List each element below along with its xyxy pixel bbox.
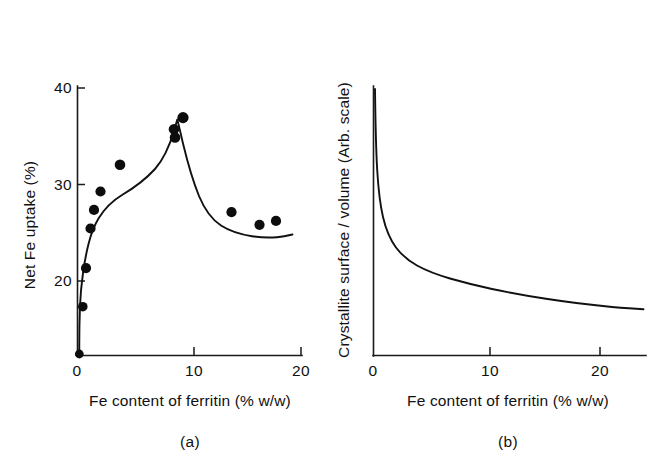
panel-a-plot-area: 40 30 20 0 10 20 Net Fe uptake (%) (0, 0, 340, 467)
panel-a-data-point (170, 132, 181, 143)
panel-a-data-point (254, 220, 264, 230)
panel-a-xtick-label-0: 0 (72, 362, 81, 379)
panel-a-xtick-label-10: 10 (185, 362, 203, 379)
panel-b-xtick-label-10: 10 (481, 362, 499, 379)
panel-a-data-point (177, 112, 188, 123)
panel-b-decay-curve (375, 89, 644, 309)
panel-b-xtick-label-20: 20 (591, 362, 609, 379)
panel-b-plot-area: 0 10 20 Crystallite surface / volume (Ar… (330, 0, 658, 467)
panel-a-data-point (81, 263, 91, 273)
panel-a-fitted-curve (79, 120, 292, 355)
panel-b-xtick-label-0: 0 (368, 362, 377, 379)
chart-panel-a: 40 30 20 0 10 20 Net Fe uptake (%) (0, 0, 340, 467)
panel-a-caption: (a) (180, 433, 200, 450)
chart-panel-b: 0 10 20 Crystallite surface / volume (Ar… (330, 0, 658, 467)
panel-a-ytick-label-20: 20 (54, 272, 72, 289)
panel-b-y-axis-title: Crystallite surface / volume (Arb. scale… (335, 82, 352, 358)
panel-a-data-point (95, 186, 105, 196)
panel-a-data-point (89, 205, 99, 215)
panel-a-xtick-label-20: 20 (292, 362, 310, 379)
panel-a-ytick-label-40: 40 (54, 79, 72, 96)
panel-b-x-axis-title: Fe content of ferritin (% w/w) (407, 392, 609, 409)
panel-a-data-point (85, 223, 95, 233)
panel-a-ytick-label-30: 30 (54, 176, 72, 193)
panel-a-x-axis-title: Fe content of ferritin (% w/w) (89, 392, 291, 409)
panel-b-caption: (b) (498, 433, 518, 450)
figure-root: 40 30 20 0 10 20 Net Fe uptake (%) (0, 0, 658, 467)
panel-a-y-axis-title: Net Fe uptake (%) (21, 161, 38, 289)
panel-a-data-point (75, 350, 84, 359)
panel-a-data-point (271, 216, 281, 226)
panel-a-data-point (78, 302, 88, 312)
panel-a-data-point (226, 207, 236, 217)
panel-a-data-point (115, 160, 126, 171)
